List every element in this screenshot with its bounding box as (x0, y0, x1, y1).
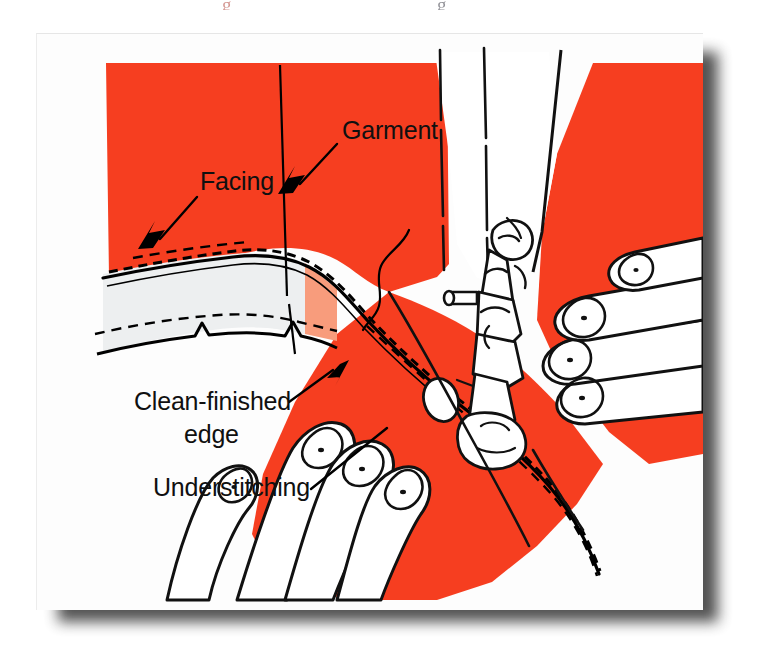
label-edge: edge (184, 420, 239, 448)
illustration-canvas: Garment Facing Clean-finished edge Under… (37, 34, 703, 610)
illustration-stage: g g (0, 0, 772, 661)
label-facing: Facing (200, 167, 274, 195)
label-garment: Garment (342, 116, 438, 144)
label-understitching: Understitching (153, 473, 310, 501)
top-clipped-text-right: g (437, 0, 447, 10)
label-clean-finished: Clean-finished (134, 387, 291, 415)
illustration-card: Garment Facing Clean-finished edge Under… (36, 33, 703, 610)
top-clipped-text-left: g (222, 0, 232, 10)
understitching-figure: Garment Facing Clean-finished edge Under… (37, 34, 703, 610)
